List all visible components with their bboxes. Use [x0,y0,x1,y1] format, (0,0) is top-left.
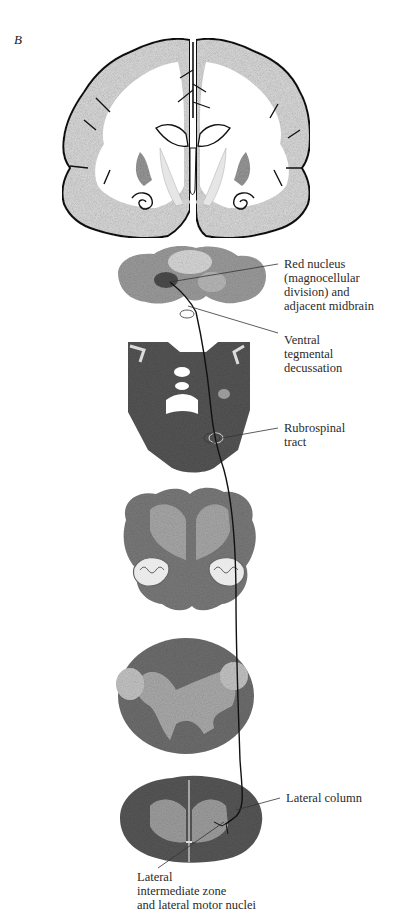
lumbar-cord-section [120,776,262,863]
rubrospinal-diagram [0,0,393,909]
label-line: (magnocellular [284,271,374,285]
red-nucleus-label: Red nucleus (magnocellular division) and… [284,257,374,313]
cervical-cord-section [116,638,254,754]
label-line: adjacent midbrain [284,299,374,313]
label-line: and lateral motor nuclei [137,898,256,909]
label-line: Ventral [284,333,342,347]
label-line: Lateral column [286,791,362,805]
label-line: Lateral [137,870,256,884]
rubrospinal-tract-label: Rubrospinal tract [284,421,345,449]
label-line: division) and [284,285,374,299]
lateral-intermediate-zone-label: Lateral intermediate zone and lateral mo… [137,870,256,909]
label-line: tegmental [284,347,342,361]
lateral-column-label: Lateral column [286,791,362,805]
ventral-tegmental-decussation-label: Ventral tegmental decussation [284,333,342,375]
label-line: tract [284,435,345,449]
label-line: decussation [284,361,342,375]
label-line: Rubrospinal [284,421,345,435]
label-line: Red nucleus [284,257,374,271]
coronal-forebrain-section [62,39,310,238]
pons-section [128,342,250,473]
label-line: intermediate zone [137,884,256,898]
